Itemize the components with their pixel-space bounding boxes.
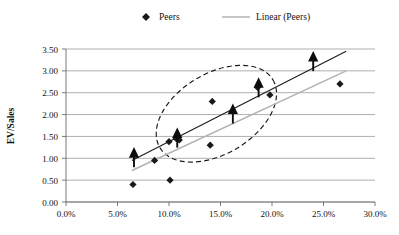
data-point-diamond xyxy=(336,80,343,87)
y-tick-label-2-00: 2.00 xyxy=(42,110,58,120)
x-axis-tick-labels: 0.0% 5.0% 10.0% 15.0% 20.0% 25.0% 30.0% xyxy=(57,209,388,219)
annotation-ellipse-0 xyxy=(139,45,293,182)
x-tick-label-0: 0.0% xyxy=(57,209,76,219)
data-point-diamond xyxy=(209,98,216,105)
y-axis-ticks xyxy=(62,49,66,202)
legend-item-linear-peers: Linear (Peers) xyxy=(222,12,310,23)
y-tick-label-3-00: 3.00 xyxy=(42,66,58,76)
chart-container: Peers Linear (Peers) EV/Sales xyxy=(0,0,399,235)
chart-svg: Peers Linear (Peers) EV/Sales xyxy=(0,0,399,235)
legend-item-peers: Peers xyxy=(142,12,180,22)
legend-label-linear-peers: Linear (Peers) xyxy=(256,12,310,23)
y-tick-label-3-50: 3.50 xyxy=(42,45,58,55)
x-tick-label-5: 5.0% xyxy=(108,209,127,219)
y-tick-label-1-00: 1.00 xyxy=(42,154,58,164)
y-tick-label-0-00: 0.00 xyxy=(42,198,58,208)
x-tick-label-25: 25.0% xyxy=(312,209,336,219)
plot-layer xyxy=(129,45,346,188)
y-tick-label-1-50: 1.50 xyxy=(42,132,58,142)
data-point-arrow-up xyxy=(310,53,317,71)
x-tick-label-15: 15.0% xyxy=(209,209,233,219)
y-tick-label-2-50: 2.50 xyxy=(42,88,58,98)
x-tick-label-10: 10.0% xyxy=(157,209,181,219)
y-axis-tick-labels: 3.50 3.00 2.50 2.00 1.50 1.00 0.50 0.00 xyxy=(42,45,58,208)
x-tick-label-30: 30.0% xyxy=(363,209,387,219)
legend-label-peers: Peers xyxy=(159,12,180,22)
y-tick-label-0-50: 0.50 xyxy=(42,176,58,186)
trendline-1 xyxy=(132,71,346,171)
x-tick-label-20: 20.0% xyxy=(260,209,284,219)
data-point-diamond xyxy=(207,142,214,149)
gridlines-horizontal xyxy=(66,49,375,202)
data-point-diamond xyxy=(165,138,172,145)
y-axis-title: EV/Sales xyxy=(6,107,16,144)
data-point-diamond xyxy=(129,181,136,188)
x-axis-ticks xyxy=(66,202,375,206)
legend-diamond-icon xyxy=(142,13,150,21)
data-point-diamond xyxy=(166,177,173,184)
chart-legend: Peers Linear (Peers) xyxy=(142,12,310,23)
